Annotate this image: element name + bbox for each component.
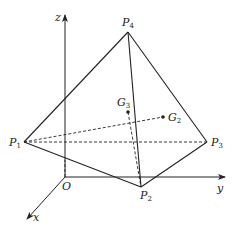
p1-label: P1 [8, 136, 21, 150]
p2-label: P2 [139, 189, 152, 203]
edge-p1-p4 [24, 32, 128, 142]
g3-label: G3 [117, 96, 130, 110]
g2-label: G2 [168, 111, 181, 125]
z-axis-label: z [54, 11, 61, 24]
y-axis-label: y [216, 182, 224, 195]
edge-p1-p2 [24, 142, 141, 187]
x-axis-label: x [33, 211, 40, 224]
axes [27, 15, 225, 219]
p3-label: P3 [210, 136, 223, 150]
edge-p4-p3 [128, 32, 207, 142]
g3-point [126, 110, 130, 114]
g2-point [161, 115, 165, 119]
tetrahedron-edges [24, 32, 207, 187]
p4-label: P4 [121, 16, 134, 30]
origin-label: O [62, 180, 71, 193]
tetrahedron-diagram: z y x O P1 P2 P3 P4 G2 G3 [0, 0, 235, 231]
p1-g2-line [24, 117, 163, 142]
edge-p2-p3 [141, 142, 207, 187]
g3-p2-line [128, 112, 141, 187]
